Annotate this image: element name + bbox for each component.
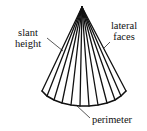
lateral-faces-leader — [104, 42, 110, 48]
slant-height-label: slant height — [8, 27, 48, 49]
lateral-faces-label: lateral faces — [104, 20, 144, 42]
slant-height-leader — [47, 38, 63, 51]
perimeter-label: perimeter — [86, 114, 138, 125]
